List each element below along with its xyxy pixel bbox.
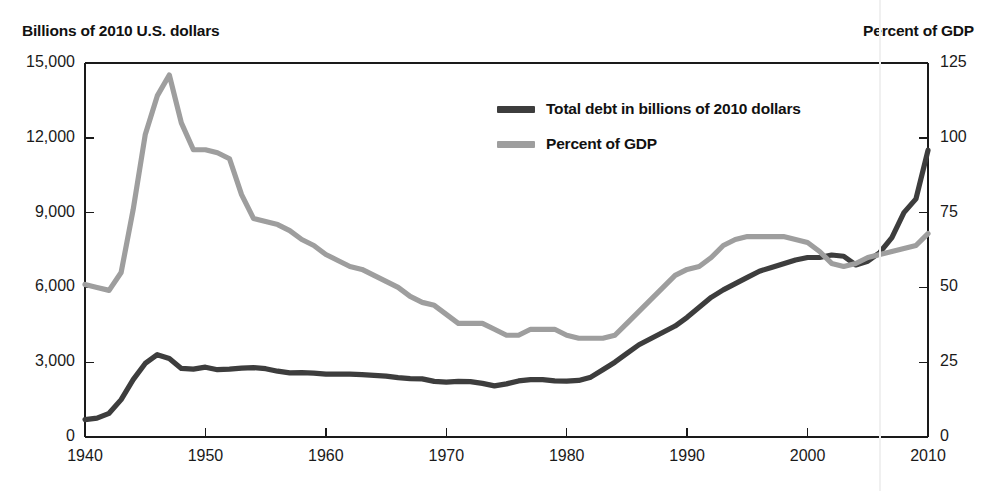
legend-label-percent-gdp: Percent of GDP bbox=[546, 135, 657, 153]
tick-label: 75 bbox=[940, 204, 988, 220]
tick-label: 1980 bbox=[527, 448, 607, 464]
tick-label: 100 bbox=[940, 129, 988, 145]
tick-marks bbox=[85, 138, 928, 437]
tick-label: 25 bbox=[940, 353, 988, 369]
plot-area bbox=[0, 0, 988, 491]
tick-label: 3,000 bbox=[0, 353, 75, 369]
chart-container: Billions of 2010 U.S. dollars Percent of… bbox=[0, 0, 988, 491]
tick-label: 9,000 bbox=[0, 204, 75, 220]
tick-label: 2000 bbox=[768, 448, 848, 464]
tick-label: 6,000 bbox=[0, 278, 75, 294]
legend-swatch-total-debt bbox=[497, 106, 535, 113]
tick-label: 15,000 bbox=[0, 54, 75, 70]
tick-label: 125 bbox=[940, 54, 988, 70]
legend-item-total-debt: Total debt in billions of 2010 dollars bbox=[497, 100, 801, 118]
legend-item-percent-gdp: Percent of GDP bbox=[497, 135, 801, 153]
legend-label-total-debt: Total debt in billions of 2010 dollars bbox=[546, 100, 801, 118]
chart-legend: Total debt in billions of 2010 dollars P… bbox=[497, 100, 801, 153]
tick-label: 1990 bbox=[647, 448, 727, 464]
tick-label: 50 bbox=[940, 278, 988, 294]
tick-label: 0 bbox=[0, 428, 75, 444]
legend-swatch-percent-gdp bbox=[497, 141, 535, 148]
tick-label: 1970 bbox=[406, 448, 486, 464]
tick-label: 1940 bbox=[45, 448, 125, 464]
tick-label: 2010 bbox=[888, 448, 968, 464]
tick-label: 1960 bbox=[286, 448, 366, 464]
tick-label: 12,000 bbox=[0, 129, 75, 145]
tick-label: 0 bbox=[940, 428, 988, 444]
tick-label: 1950 bbox=[165, 448, 245, 464]
